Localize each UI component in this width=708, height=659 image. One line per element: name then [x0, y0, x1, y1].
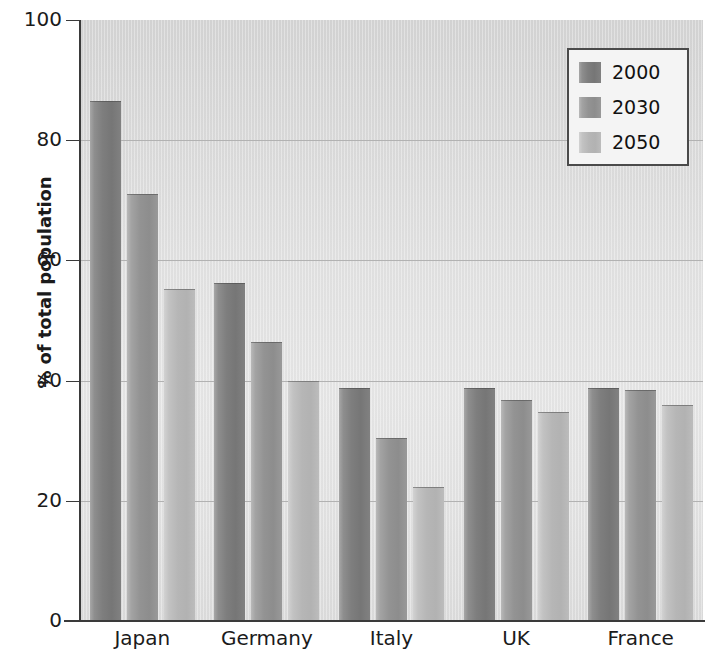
x-label-japan: Japan [80, 626, 205, 650]
bar-france-2000 [588, 388, 619, 621]
legend-swatch-icon-2050 [579, 132, 601, 153]
bar-cap [251, 342, 282, 343]
legend-item-2030[interactable]: 2030 [579, 95, 660, 119]
bar-cap [90, 101, 121, 102]
gridline-60 [80, 260, 703, 261]
y-tick-mark-20 [66, 501, 80, 502]
bar-france-2050 [662, 405, 693, 621]
y-tick-label-80: 80 [0, 127, 62, 151]
y-tick-label-40: 40 [0, 368, 62, 392]
bar-cap [127, 194, 158, 195]
bar-germany-2050 [288, 381, 319, 621]
x-label-italy: Italy [329, 626, 454, 650]
legend-swatch-icon-2030 [579, 97, 601, 118]
legend-swatch-icon-2000 [579, 62, 601, 83]
bar-cap [376, 438, 407, 439]
bar-cap [339, 388, 370, 389]
chart-title-clipped [0, 0, 708, 9]
bar-uk-2050 [538, 412, 569, 621]
legend-label-2050: 2050 [612, 133, 660, 152]
bar-cap [288, 381, 319, 382]
bar-japan-2000 [90, 101, 121, 621]
x-axis-line [64, 620, 705, 622]
y-tick-label-0: 0 [0, 608, 62, 632]
legend-item-2050[interactable]: 2050 [579, 130, 660, 154]
bar-italy-2030 [376, 438, 407, 621]
x-label-france: France [578, 626, 703, 650]
legend-box: 2000 2030 2050 [567, 48, 689, 166]
bar-japan-2030 [127, 194, 158, 621]
y-tick-mark-40 [66, 381, 80, 382]
bar-italy-2050 [413, 487, 444, 621]
bar-cap [164, 289, 195, 290]
y-tick-mark-0 [66, 621, 80, 622]
y-tick-label-60: 60 [0, 247, 62, 271]
bar-cap [662, 405, 693, 406]
bar-germany-2030 [251, 342, 282, 621]
bar-cap [413, 487, 444, 488]
bar-cap [625, 390, 656, 391]
legend-item-2000[interactable]: 2000 [579, 60, 660, 84]
x-label-germany: Germany [205, 626, 330, 650]
bar-cap [588, 388, 619, 389]
legend-label-2000: 2000 [612, 63, 660, 82]
y-tick-label-20: 20 [0, 488, 62, 512]
bar-uk-2000 [464, 388, 495, 621]
bar-uk-2030 [501, 400, 532, 621]
y-axis-line [79, 20, 81, 622]
bar-cap [538, 412, 569, 413]
bar-france-2030 [625, 390, 656, 621]
y-tick-mark-100 [66, 20, 80, 21]
bar-cap [214, 283, 245, 284]
x-label-uk: UK [454, 626, 579, 650]
bar-cap [464, 388, 495, 389]
bar-italy-2000 [339, 388, 370, 621]
y-tick-mark-80 [66, 140, 80, 141]
bar-cap [501, 400, 532, 401]
y-tick-mark-60 [66, 260, 80, 261]
y-tick-label-100: 100 [0, 7, 62, 31]
bar-japan-2050 [164, 289, 195, 621]
legend-label-2030: 2030 [612, 98, 660, 117]
bar-chart: % of total population 020406080100 Japan… [0, 0, 708, 659]
bar-germany-2000 [214, 283, 245, 621]
